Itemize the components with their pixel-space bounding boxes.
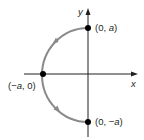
- point-bottom: [85, 119, 91, 125]
- y-axis-arrow-icon: [86, 8, 91, 15]
- point-left-label: (−a, 0): [8, 80, 36, 91]
- point-bottom-label: (0, −a): [95, 116, 123, 127]
- semicircle-diagram: y x (0, a) (−a, 0) (0, −a): [0, 0, 144, 140]
- x-axis-arrow-icon: [131, 72, 138, 77]
- semicircle-curve: [42, 28, 88, 122]
- point-top-label: (0, a): [95, 22, 117, 33]
- point-top: [85, 25, 91, 31]
- point-left: [40, 71, 46, 77]
- x-axis-label: x: [130, 78, 137, 89]
- y-axis-label: y: [77, 6, 84, 17]
